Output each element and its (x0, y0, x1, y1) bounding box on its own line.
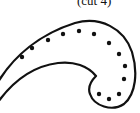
stitch-dot (117, 52, 121, 56)
stitch-dot (20, 55, 24, 59)
stitch-dot (97, 92, 101, 96)
stitch-dot (92, 32, 96, 36)
shape-outline (0, 21, 135, 108)
stitch-dot (77, 29, 81, 33)
stitch-dot (46, 38, 50, 42)
stitch-dots (20, 29, 127, 101)
stitch-dot (107, 41, 111, 45)
stitch-dot (123, 64, 127, 68)
hook-shape-diagram (0, 0, 140, 113)
stitch-dot (61, 32, 65, 36)
stitch-dot (107, 97, 111, 101)
stitch-dot (122, 77, 126, 81)
stitch-dot (117, 92, 121, 96)
stitch-dot (30, 46, 34, 50)
